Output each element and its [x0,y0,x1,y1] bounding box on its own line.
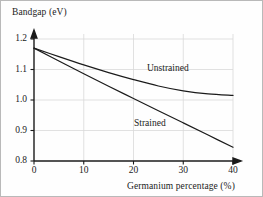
y-tick-label-2: 1.1 [7,64,27,74]
gridlines-vertical [84,34,233,161]
y-axis-label: Bandgap (eV) [12,7,67,17]
series-label-strained: Strained [134,118,166,128]
y-tick-label-4: 0.9 [7,125,27,135]
x-axis-label: Germanium percentage (%) [127,181,235,191]
chart-figure: Bandgap (eV) Germanium percentage (%) 1.… [0,0,263,197]
series-label-unstrained: Unstrained [147,63,189,73]
y-tick-label-1: 1.2 [7,33,27,43]
x-tick-label-2: 10 [74,165,94,175]
y-tick-label-3: 1.0 [7,94,27,104]
x-tick-label-1: 0 [24,165,44,175]
axis-lines [31,30,241,164]
x-tick-label-4: 30 [173,165,193,175]
y-tick-label-5: 0.8 [7,155,27,165]
x-tick-label-3: 20 [124,165,144,175]
x-tick-label-5: 40 [223,165,243,175]
